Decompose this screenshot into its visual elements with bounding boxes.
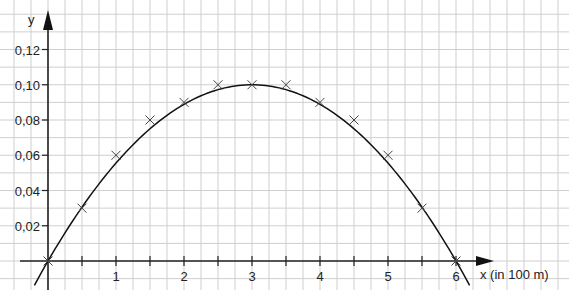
y-tick-label: 0,06	[15, 148, 40, 163]
x-axis-label: x (in 100 m)	[480, 267, 549, 282]
y-tick-label: 0,12	[15, 43, 40, 58]
x-tick-label: 6	[452, 269, 459, 284]
axes	[20, 10, 494, 290]
y-tick-label: 0,08	[15, 113, 40, 128]
x-axis-arrow-icon	[476, 256, 494, 266]
x-tick-label: 1	[112, 269, 119, 284]
x-tick-label: 4	[316, 269, 323, 284]
ticks: 1234560,020,040,060,080,100,12	[15, 43, 460, 285]
y-axis-arrow-icon	[43, 10, 53, 30]
x-tick-label: 3	[248, 269, 255, 284]
parabola-chart: 1234560,020,040,060,080,100,12 y x (in 1…	[0, 0, 569, 290]
grid	[0, 0, 569, 290]
x-tick-label: 2	[180, 269, 187, 284]
y-tick-label: 0,10	[15, 78, 40, 93]
y-tick-label: 0,02	[15, 219, 40, 234]
y-tick-label: 0,04	[15, 184, 40, 199]
y-axis-label: y	[28, 12, 35, 27]
x-tick-label: 5	[384, 269, 391, 284]
